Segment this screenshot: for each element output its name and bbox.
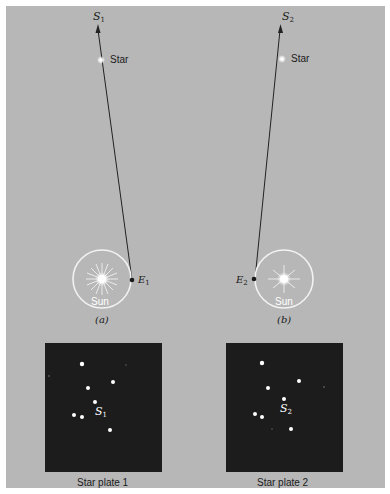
earth-label-a: E1 [138,274,150,287]
direction-label-a: S1 [93,10,105,24]
caption-a: (a) [95,314,109,325]
plate-2-star-label: S2 [280,402,292,416]
sun-label-a: Sun [91,296,109,307]
star-icon-a [97,56,105,64]
sun-label-b: Sun [275,296,293,307]
star-label-a: Star [110,54,128,65]
direction-label-b: S2 [282,10,294,24]
plate-1-star-label: S1 [95,405,107,419]
light-ray-b [255,24,283,279]
earth-marker-b [252,277,257,282]
earth-label-b: E2 [236,274,248,287]
earth-marker-a [130,278,135,283]
plate-1-caption: Star plate 1 [77,477,128,488]
caption-b: (b) [277,314,291,325]
star-icon-b [278,55,286,63]
plate-2-caption: Star plate 2 [257,477,308,488]
star-label-b: Star [291,53,309,64]
